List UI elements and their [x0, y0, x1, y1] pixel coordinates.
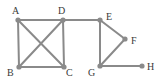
edge-f-g	[100, 39, 125, 66]
nodes-group	[15, 17, 144, 69]
node-label-c: C	[66, 67, 73, 78]
node-label-g: G	[88, 67, 95, 78]
node-e	[97, 17, 102, 22]
node-label-d: D	[58, 5, 65, 16]
node-h	[139, 63, 144, 68]
node-f	[122, 36, 127, 41]
graph-diagram: ABCDEFGH	[0, 0, 164, 83]
node-label-f: F	[131, 35, 137, 46]
node-d	[60, 17, 65, 22]
node-label-b: B	[7, 67, 14, 78]
node-label-h: H	[147, 61, 154, 72]
node-b	[16, 64, 21, 69]
node-label-e: E	[106, 11, 112, 22]
node-label-a: A	[12, 5, 20, 16]
node-g	[97, 63, 102, 68]
node-a	[15, 17, 20, 22]
edge-e-f	[100, 20, 125, 39]
edges-group	[18, 20, 142, 67]
edge-d-c	[63, 20, 64, 67]
edge-a-b	[18, 20, 19, 67]
